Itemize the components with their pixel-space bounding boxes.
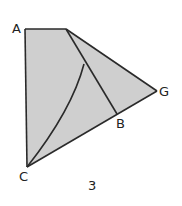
figure-caption: 3 [88,178,96,193]
label-g: G [159,84,169,99]
shaded-region [25,29,157,167]
label-b: B [116,116,125,131]
label-c: C [19,169,28,184]
geometry-figure: A G B C 3 [0,0,182,206]
label-a: A [12,21,21,36]
